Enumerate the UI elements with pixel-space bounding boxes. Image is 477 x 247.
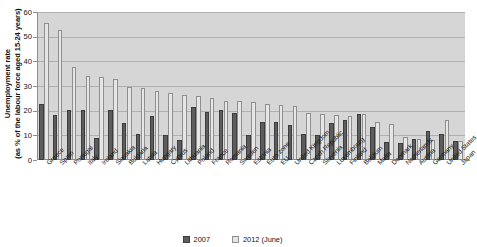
bar-2012 xyxy=(72,67,77,160)
bar-group xyxy=(37,12,51,160)
bar-group xyxy=(258,12,272,160)
bar-group xyxy=(286,12,300,160)
bar-2012 xyxy=(44,23,49,160)
chart-legend: 20072012 (June) xyxy=(0,235,465,244)
bar-group xyxy=(106,12,120,160)
bar-group xyxy=(341,12,355,160)
legend-label: 2012 (June) xyxy=(243,235,282,244)
bar-group xyxy=(203,12,217,160)
bar-2012 xyxy=(58,30,63,160)
bar-group xyxy=(382,12,396,160)
legend-swatch-icon xyxy=(183,236,190,243)
y-axis-title: Unemployment rate (as % of the labour fo… xyxy=(3,0,22,169)
bar-group xyxy=(175,12,189,160)
y-axis-title-line2: (as % of the labour force aged 15-24 yea… xyxy=(13,0,23,169)
legend-label: 2007 xyxy=(194,235,210,244)
bar-2012 xyxy=(293,106,298,160)
bar-group xyxy=(134,12,148,160)
bar-group xyxy=(368,12,382,160)
bar-2007 xyxy=(39,104,44,160)
bar-group xyxy=(230,12,244,160)
bar-group xyxy=(51,12,65,160)
bar-2012 xyxy=(99,77,104,160)
bar-group xyxy=(78,12,92,160)
bar-group xyxy=(410,12,424,160)
legend-item: 2012 (June) xyxy=(232,235,282,244)
bar-group xyxy=(65,12,79,160)
bars-layer xyxy=(37,12,465,160)
legend-swatch-icon xyxy=(232,236,239,243)
bar-group xyxy=(216,12,230,160)
bar-group xyxy=(396,12,410,160)
bar-2012 xyxy=(155,91,160,160)
bar-group xyxy=(299,12,313,160)
legend-item: 2007 xyxy=(183,235,210,244)
bar-group xyxy=(437,12,451,160)
bar-group xyxy=(92,12,106,160)
bar-group xyxy=(120,12,134,160)
bar-group xyxy=(451,12,465,160)
y-axis-title-line1: Unemployment rate xyxy=(3,49,12,118)
bar-group xyxy=(272,12,286,160)
bar-group xyxy=(189,12,203,160)
bar-group xyxy=(147,12,161,160)
bar-group xyxy=(161,12,175,160)
x-axis-labels: GreeceSpainPortugalItalyIrelandSlovakiaB… xyxy=(37,161,465,225)
bar-group xyxy=(244,12,258,160)
